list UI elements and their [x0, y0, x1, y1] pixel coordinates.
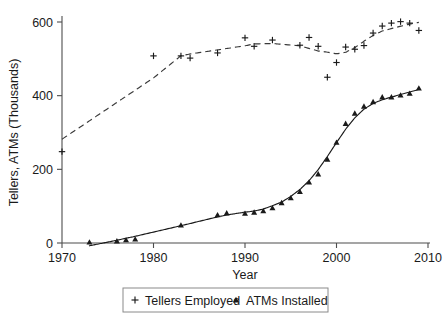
data-point-marker — [215, 212, 221, 217]
y-tick-label-600: 600 — [32, 16, 53, 30]
legend-entry-atms[interactable]: ATMs Installed — [233, 294, 328, 308]
legend-layer[interactable]: Tellers EmployedATMs Installed — [123, 288, 328, 312]
chart-plot-area: 020040060019701980199020002010YearTeller… — [0, 0, 448, 324]
data-point-marker — [379, 94, 385, 99]
series-layer — [59, 18, 422, 245]
chart-figure: 020040060019701980199020002010YearTeller… — [0, 0, 448, 324]
data-point-marker — [306, 179, 312, 184]
fit-line-atms — [89, 89, 418, 245]
series-atms — [86, 85, 421, 246]
y-axis-title: Tellers, ATMs (Thousands) — [7, 59, 21, 207]
legend-entry-tellers[interactable]: Tellers Employed — [132, 294, 241, 308]
y-tick-label-0: 0 — [46, 237, 53, 251]
x-tick-label-2010: 2010 — [414, 251, 442, 265]
markers-atms — [86, 85, 421, 244]
data-point-marker — [352, 110, 358, 115]
markers-tellers — [59, 18, 422, 154]
data-point-marker — [343, 121, 349, 126]
x-tick-label-2000: 2000 — [323, 251, 351, 265]
series-tellers — [59, 18, 422, 154]
x-tick-label-1970: 1970 — [48, 251, 76, 265]
x-tick-label-1990: 1990 — [231, 251, 259, 265]
data-point-marker — [269, 205, 275, 210]
fit-line-tellers — [62, 22, 419, 139]
x-tick-label-1980: 1980 — [140, 251, 168, 265]
x-axis-title: Year — [232, 268, 257, 282]
data-point-marker — [86, 239, 92, 244]
legend-label: Tellers Employed — [145, 294, 240, 308]
y-tick-label-400: 400 — [32, 89, 53, 103]
data-point-marker — [242, 210, 248, 215]
legend-label: ATMs Installed — [246, 294, 328, 308]
y-tick-label-200: 200 — [32, 163, 53, 177]
data-point-marker — [370, 99, 376, 104]
data-point-marker — [224, 210, 230, 215]
data-point-marker — [416, 85, 422, 90]
axis-layer: 020040060019701980199020002010YearTeller… — [7, 16, 442, 283]
data-point-marker — [361, 103, 367, 108]
